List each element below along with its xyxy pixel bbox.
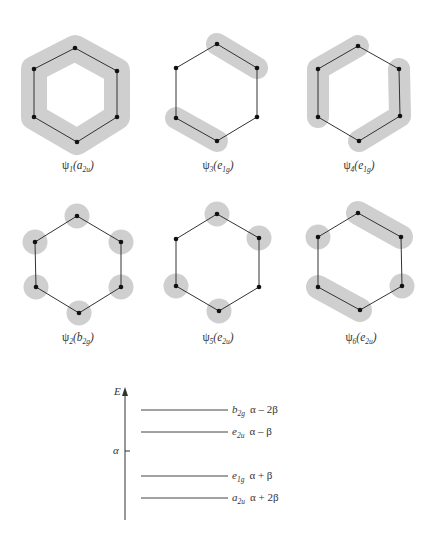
symmetry-subscript: 2u (222, 337, 230, 346)
orbital-psi5 (164, 202, 272, 324)
psi2-shading (23, 204, 134, 326)
psi5-ring (176, 214, 259, 311)
orbital-index: 2 (69, 337, 73, 346)
psi2-ring (35, 216, 121, 313)
orbital-index: 1 (69, 165, 73, 174)
symmetry-subscript: 1g (363, 165, 371, 174)
psi3-shading (176, 44, 257, 141)
symmetry-subscript: 2g (83, 337, 91, 346)
level-energy: α – β (249, 425, 271, 437)
orbital-psi1 (32, 46, 120, 145)
psi6-shading-bonds (318, 213, 401, 310)
level-symmetry-subscript: 1g (237, 475, 245, 484)
psi2-atoms (33, 214, 124, 316)
level-label-e2u: e2uα – β (232, 426, 272, 440)
orbital-label-psi1: ψ1(a2u) (62, 160, 94, 174)
orbital-psi3 (174, 42, 260, 144)
level-label-e1g: e1gα + β (232, 470, 272, 484)
symmetry-subscript: 2u (83, 165, 91, 174)
orbital-psi4 (316, 44, 403, 144)
orbital-label-psi4: ψ4(e1g) (343, 160, 374, 174)
level-label-a2u: a2uα + 2β (232, 492, 279, 506)
symmetry-subscript: 1g (222, 165, 230, 174)
level-energy: α + β (249, 469, 272, 481)
level-energy: α – 2β (250, 403, 278, 415)
orbital-psi6 (306, 211, 415, 313)
symmetry-subscript: 2u (365, 337, 373, 346)
alpha-reference-label: α (113, 445, 119, 456)
benzene-mo-diagram (0, 0, 437, 538)
orbital-label-psi3: ψ3(e1g) (202, 160, 233, 174)
orbital-index: 6 (353, 337, 357, 346)
orbital-index: 5 (210, 337, 214, 346)
level-symmetry-subscript: 2u (237, 431, 245, 440)
psi4-shading (318, 46, 400, 141)
orbital-index: 3 (210, 165, 214, 174)
energy-level-lines (141, 410, 228, 498)
psi5-shading (164, 202, 272, 324)
level-symmetry-subscript: 2g (238, 409, 246, 418)
level-label-b2g: b2gα – 2β (232, 404, 278, 418)
orbital-label-psi2: ψ2(b2g) (62, 332, 94, 346)
energy-axis-arrow-icon (122, 387, 128, 396)
level-symmetry-subscript: 2u (238, 497, 246, 506)
orbital-index: 4 (351, 165, 355, 174)
orbital-label-psi5: ψ5(e2u) (202, 332, 233, 346)
level-energy: α + 2β (250, 491, 279, 503)
psi5-atoms (174, 212, 262, 314)
energy-diagram (122, 387, 228, 520)
orbital-label-psi6: ψ6(e2u) (345, 332, 376, 346)
orbital-psi2 (23, 204, 134, 326)
energy-axis-label: E (114, 386, 121, 397)
